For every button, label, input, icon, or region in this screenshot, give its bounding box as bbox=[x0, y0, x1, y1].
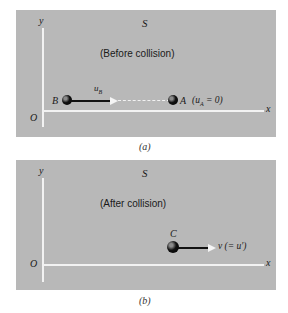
frame-label: S bbox=[142, 17, 148, 29]
velocity-arrow-c-head bbox=[208, 244, 216, 252]
x-axis bbox=[42, 264, 264, 266]
y-axis bbox=[42, 28, 44, 127]
particle-a-velocity-note: (uA = 0) bbox=[192, 95, 223, 107]
x-axis-label: x bbox=[266, 257, 270, 268]
panel-title: (Before collision) bbox=[100, 48, 174, 59]
x-axis-label: x bbox=[266, 103, 270, 114]
caption-a: (a) bbox=[139, 141, 151, 152]
particle-a bbox=[168, 95, 178, 105]
y-axis bbox=[42, 178, 44, 282]
velocity-arrow-b-shaft bbox=[70, 100, 112, 102]
y-axis-label: y bbox=[39, 15, 43, 26]
velocity-arrow-c-shaft bbox=[178, 247, 210, 249]
particle-b-label: B bbox=[52, 95, 58, 106]
particle-c-label: C bbox=[170, 228, 177, 239]
origin-label: O bbox=[30, 258, 37, 269]
panel-after-collision: y x O S (After collision) C v (= u′) bbox=[16, 160, 276, 290]
frame-label: S bbox=[142, 167, 148, 179]
panel-title: (After collision) bbox=[100, 198, 166, 209]
particle-a-label: A bbox=[180, 95, 186, 106]
origin-label: O bbox=[30, 112, 37, 123]
caption-b: (b) bbox=[139, 295, 151, 306]
velocity-c-label: v (= u′) bbox=[218, 241, 247, 251]
x-axis bbox=[42, 110, 264, 112]
path-dashed-line bbox=[118, 100, 170, 101]
velocity-arrow-b-head bbox=[110, 97, 118, 105]
panel-before-collision: y x O S (Before collision) B uB A (uA = … bbox=[16, 10, 276, 137]
y-axis-label: y bbox=[39, 165, 43, 176]
velocity-b-label: uB bbox=[94, 83, 102, 95]
